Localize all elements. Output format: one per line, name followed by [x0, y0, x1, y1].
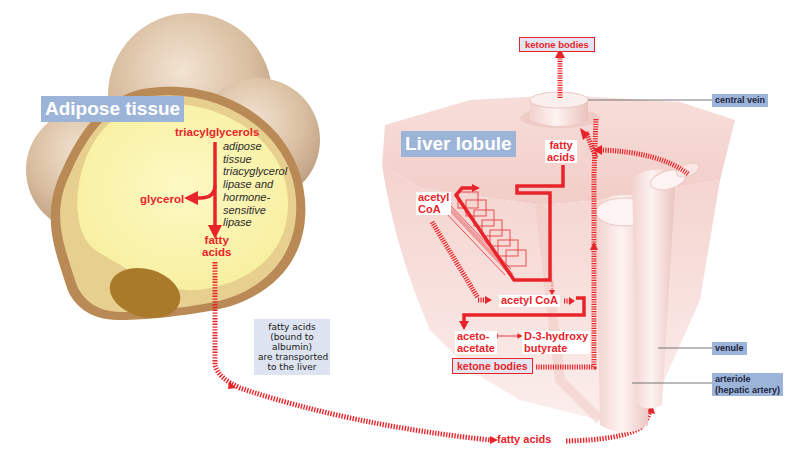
glycerol-label: glycerol: [140, 193, 184, 205]
acetyl-coa-cycle-label: acetyl CoA: [416, 192, 451, 215]
triacylglycerols-label: triacylglycerols: [175, 126, 259, 138]
ketone-bodies-blood-label: ketone bodies: [519, 37, 595, 52]
transport-note: fatty acids (bound to albumin) are trans…: [254, 319, 330, 375]
hydroxybutyrate-label: D-3-hydroxy butyrate: [522, 331, 590, 354]
ketone-bodies-liver-label: ketone bodies: [452, 358, 533, 374]
liver-title: Liver lobule: [401, 131, 516, 157]
bloodstream-fatty-acids-label: fatty acids: [497, 434, 551, 446]
diagram-canvas: [0, 0, 808, 466]
liver-fatty-acids-label: fatty acids: [545, 140, 577, 163]
lipase-enzyme-label: adipose tissue triacyglycerol lipase and…: [223, 140, 287, 229]
central-vein-callout: central vein: [712, 94, 768, 107]
arteriole-callout: arteriole (hepatic artery): [712, 373, 783, 396]
adipose-fatty-acids-label: fatty acids: [202, 234, 231, 258]
adipose-title: Adipose tissue: [41, 96, 184, 122]
acetyl-coa-label: acetyl CoA: [499, 295, 560, 307]
acetoacetate-label: aceto- acetate: [455, 331, 497, 354]
venule-callout: venule: [712, 342, 747, 355]
